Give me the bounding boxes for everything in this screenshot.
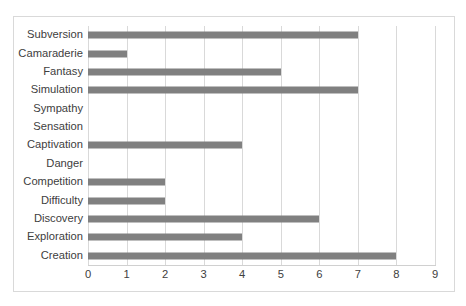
category-label: Exploration: [27, 232, 83, 243]
x-tick-label: 3: [201, 269, 207, 280]
bar: [88, 216, 319, 223]
bar-row: Creation: [88, 247, 435, 265]
bar-row: Camaraderie: [88, 44, 435, 62]
bar-row: Competition: [88, 173, 435, 191]
x-tick-label: 5: [278, 269, 284, 280]
category-label: Subversion: [27, 30, 83, 41]
bar: [88, 197, 165, 204]
bar-row: Sensation: [88, 118, 435, 136]
category-label: Discovery: [34, 213, 83, 224]
x-tick-label: 0: [85, 269, 91, 280]
x-tick-label: 4: [239, 269, 245, 280]
bar-row: Difficulty: [88, 191, 435, 209]
category-label: Difficulty: [41, 195, 83, 206]
bar: [88, 142, 242, 149]
x-tick-label: 6: [316, 269, 322, 280]
category-label: Simulation: [31, 85, 83, 96]
x-tick-label: 8: [393, 269, 399, 280]
bar: [88, 87, 358, 94]
bar-row: Discovery: [88, 210, 435, 228]
bar-row: Exploration: [88, 228, 435, 246]
category-label: Captivation: [27, 140, 83, 151]
bar: [88, 179, 165, 186]
x-axis-line: [88, 265, 436, 266]
bar: [88, 68, 281, 75]
gridline-9: [435, 26, 436, 265]
category-label: Danger: [46, 158, 83, 169]
category-label: Sympathy: [33, 103, 83, 114]
bar-chart-figure: SubversionCamaraderieFantasySimulationSy…: [13, 16, 455, 292]
bar: [88, 234, 242, 241]
x-tick-label: 9: [432, 269, 438, 280]
bar: [88, 252, 396, 259]
bar-row: Sympathy: [88, 100, 435, 118]
category-label: Fantasy: [43, 66, 83, 77]
bar: [88, 32, 358, 39]
plot-area: SubversionCamaraderieFantasySimulationSy…: [88, 26, 435, 265]
bar: [88, 50, 127, 57]
x-tick-label: 2: [162, 269, 168, 280]
category-label: Creation: [41, 250, 83, 261]
bar-row: Captivation: [88, 136, 435, 154]
category-label: Sensation: [33, 122, 83, 133]
x-tick-label: 7: [355, 269, 361, 280]
x-axis-tick-labels: 0123456789: [88, 269, 435, 289]
bar-row: Simulation: [88, 81, 435, 99]
category-label: Camaraderie: [18, 48, 83, 59]
category-label: Competition: [23, 177, 83, 188]
x-tick-label: 1: [123, 269, 129, 280]
bar-row: Subversion: [88, 26, 435, 44]
bar-row: Danger: [88, 155, 435, 173]
bar-row: Fantasy: [88, 63, 435, 81]
